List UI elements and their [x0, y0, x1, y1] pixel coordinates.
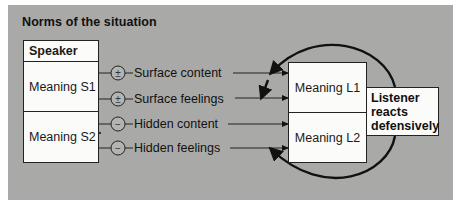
listener-reaction-box: Listener reacts defensively [366, 87, 439, 136]
small-arrow [262, 80, 268, 96]
channel-label-surface-feelings: Surface feelings [134, 92, 224, 106]
dot-mark [99, 132, 101, 134]
channel-sign-circles [111, 66, 125, 155]
channel-symbol: ± [115, 94, 121, 105]
listener-box: Meaning L1 Meaning L2 [288, 62, 367, 163]
channel-label-hidden-feelings: Hidden feelings [134, 141, 220, 155]
listener-meaning-l2: Meaning L2 [289, 113, 366, 162]
speaker-meaning-s1: Meaning S1 [24, 62, 98, 112]
listener-meaning-l1: Meaning L1 [289, 63, 366, 113]
reaction-line-2: reacts [371, 105, 438, 119]
channel-arrows [228, 73, 288, 148]
channel-symbol: − [115, 119, 121, 130]
speaker-stubs [99, 73, 133, 148]
reaction-line-3: defensively [371, 119, 438, 133]
speaker-box: Speaker Meaning S1 Meaning S2 [23, 40, 99, 163]
reaction-line-1: Listener [371, 91, 438, 105]
channel-label-surface-content: Surface content [134, 66, 222, 80]
speaker-header: Speaker [24, 41, 98, 62]
speaker-meaning-s2: Meaning S2 [24, 112, 98, 162]
channel-label-hidden-content: Hidden content [134, 117, 218, 131]
channel-symbol: − [115, 143, 121, 154]
channel-symbol: ± [115, 68, 121, 79]
